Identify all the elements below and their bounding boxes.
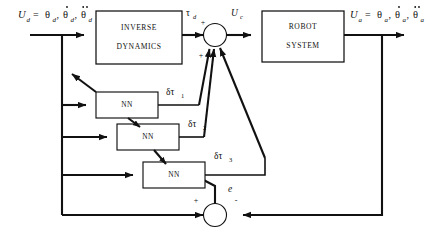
sign-top-junction-plus-left: + (201, 18, 206, 27)
ua-term2-dot1 (414, 6, 416, 8)
nn3-label: NN (168, 170, 180, 179)
ud-term2-dot1 (82, 6, 84, 8)
dtau3-sub: 3 (229, 156, 232, 163)
ud-comma1: , (75, 9, 78, 20)
ua-comma0: , (389, 9, 392, 20)
ud-term2-dot2 (86, 6, 88, 8)
ua-comma1: , (407, 9, 410, 20)
block-inverse-dynamics (96, 11, 182, 64)
nn2-label: NN (142, 132, 154, 141)
label-dtau1: δτ 1 (166, 87, 184, 99)
ua-term2-sub: a (421, 16, 425, 24)
label-dtau2: δτ 2 (188, 119, 206, 131)
ua-term1-base: θ (395, 9, 400, 20)
label-output-actual: U a = θ a , θ a , θ a (350, 6, 425, 24)
ud-term1-base: θ (63, 9, 68, 20)
tau-d-sub: d (193, 13, 197, 20)
ua-name-sub: a (359, 16, 363, 24)
robot-system-label-line1: ROBOT (289, 22, 318, 31)
ua-term1-dot1 (398, 6, 400, 8)
inverse-dynamics-label-line1: INVERSE (121, 23, 157, 32)
block-diagram: INVERSE DYNAMICS ROBOT SYSTEM NN (0, 0, 432, 247)
dtau1-base: δτ (166, 87, 174, 97)
ud-term2-base: θ (81, 9, 86, 20)
dtau1-sub: 1 (181, 92, 184, 99)
nn1-label: NN (121, 100, 133, 109)
wire-nn1-update-arrow (72, 74, 96, 92)
label-error-e: e (228, 184, 232, 194)
u-c-sub: c (240, 13, 243, 20)
ud-term0-base: θ (45, 9, 50, 20)
label-u-c: U c (231, 8, 243, 20)
label-dtau3: δτ 3 (214, 151, 232, 163)
block-robot-system (262, 11, 344, 62)
ua-equals: = (365, 9, 371, 20)
dtau3-base: δτ (214, 151, 222, 161)
label-tau-d: τ d (186, 8, 197, 20)
wire-dtau3-to-junction (220, 48, 265, 158)
ud-comma0: , (57, 9, 60, 20)
dtau2-base: δτ (188, 119, 196, 129)
summing-junction-bottom (204, 204, 227, 227)
summing-junction-top (204, 24, 227, 47)
ua-term2-base: θ (413, 9, 418, 20)
label-input-desired: U d = θ d , θ d , θ d (18, 6, 93, 24)
ud-equals: = (33, 9, 39, 20)
ud-name-sub: d (27, 16, 31, 24)
ua-term0-base: θ (377, 9, 382, 20)
sign-top-junction-plus-bottom: + (199, 51, 204, 60)
ua-term2-dot2 (418, 6, 420, 8)
u-c-base: U (231, 8, 239, 18)
inverse-dynamics-label-line2: DYNAMICS (117, 42, 162, 51)
diagram-canvas: INVERSE DYNAMICS ROBOT SYSTEM NN (0, 0, 432, 247)
sign-bottom-junction-plus: + (194, 196, 199, 205)
sign-bottom-junction-minus: - (235, 196, 238, 205)
dtau2-sub: 2 (203, 124, 206, 131)
tau-d-base: τ (186, 8, 190, 18)
ud-term2-sub: d (89, 16, 93, 24)
robot-system-label-line2: SYSTEM (286, 41, 319, 50)
ud-term1-dot1 (66, 6, 68, 8)
